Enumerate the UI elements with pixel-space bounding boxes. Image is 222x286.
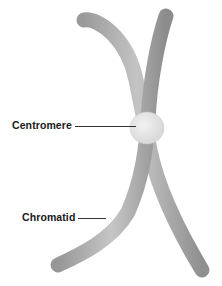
chromatid-label: Chromatid <box>22 211 75 223</box>
chromosome-diagram <box>0 0 222 286</box>
centromere-leader-line <box>75 126 136 127</box>
centromere <box>130 112 164 144</box>
chromatid-leader-line <box>78 218 106 219</box>
centromere-label: Centromere <box>12 119 72 131</box>
